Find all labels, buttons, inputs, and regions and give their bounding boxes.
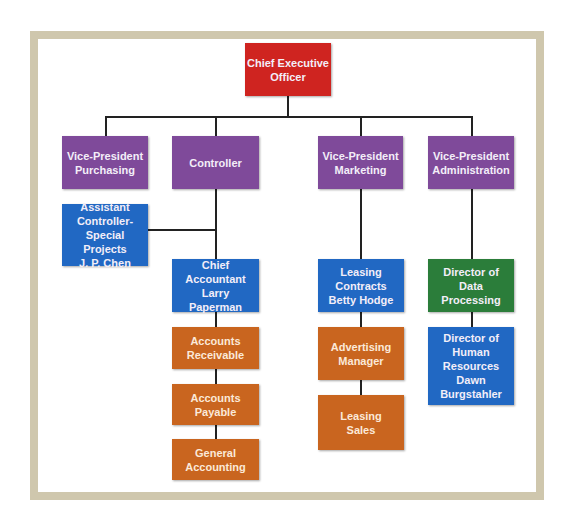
node-accounts-receivable: Accounts Receivable bbox=[172, 327, 259, 369]
node-leasing-sales: Leasing Sales bbox=[318, 395, 404, 450]
node-assistant-controller: Assistant Controller- Special Projects J… bbox=[62, 204, 148, 266]
node-chief-accountant: Chief Accountant Larry Paperman bbox=[172, 259, 259, 312]
node-vp-purchasing: Vice-President Purchasing bbox=[62, 136, 148, 189]
connector-horizontal-top bbox=[105, 116, 472, 118]
connector-vp-marketing bbox=[360, 116, 362, 136]
node-vp-administration: Vice-President Administration bbox=[428, 136, 514, 189]
connector-ceo-down bbox=[287, 96, 289, 117]
connector-asst-controller bbox=[148, 229, 216, 231]
node-advertising-manager: Advertising Manager bbox=[318, 327, 404, 380]
node-director-data-processing: Director of Data Processing bbox=[428, 259, 514, 312]
node-controller: Controller bbox=[172, 136, 259, 189]
node-accounts-payable: Accounts Payable bbox=[172, 384, 259, 425]
node-ceo: Chief Executive Officer bbox=[245, 43, 331, 96]
connector-controller bbox=[215, 116, 217, 136]
connector-vp-admin bbox=[471, 116, 473, 136]
node-general-accounting: General Accounting bbox=[172, 439, 259, 480]
node-vp-marketing: Vice-President Marketing bbox=[318, 136, 403, 189]
node-director-human-resources: Director of Human Resources Dawn Burgsta… bbox=[428, 327, 514, 405]
node-leasing-contracts: Leasing Contracts Betty Hodge bbox=[318, 259, 404, 312]
connector-vp-purchasing bbox=[105, 116, 107, 136]
